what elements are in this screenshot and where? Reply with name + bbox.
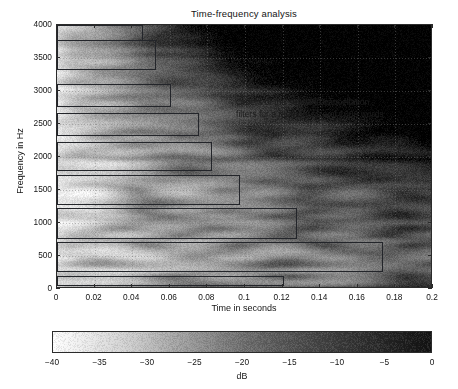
annotation-line-1: Orders of the subband cancellation [236,97,384,109]
y-tick-label: 3500 [20,52,52,62]
annotation-text: Orders of the subband cancellation filte… [236,97,384,120]
y-tick-label: 0 [20,283,52,293]
y-tick-mark [428,288,432,289]
colorbar-tick-label: −30 [140,357,154,367]
y-tick-label: 3000 [20,85,52,95]
x-axis-label: Time in seconds [56,303,432,313]
spectrogram-axes [56,24,432,288]
colorbar-label: dB [52,371,432,381]
y-axis-label: Frequency in Hz [15,111,25,211]
x-tick-label: 0.2 [426,292,438,302]
colorbar-tick-label: −5 [380,357,389,367]
x-tick-mark [432,24,433,28]
colorbar-tick-label: −15 [282,357,296,367]
colorbar-tick-label: −10 [330,357,344,367]
time-frequency-figure: Time-frequency analysis Orders of the su… [0,0,458,389]
y-tick-label: 4000 [20,19,52,29]
x-tick-label: 0.04 [123,292,139,302]
colorbar-tick-label: −25 [187,357,201,367]
x-tick-label: 0.12 [274,292,290,302]
colorbar-tick-label: −35 [92,357,106,367]
colorbar-tick-label: −40 [45,357,59,367]
x-tick-label: 0.02 [86,292,102,302]
x-tick-label: 0.14 [311,292,327,302]
x-tick-label: 0.1 [238,292,250,302]
colorbar [52,331,432,353]
colorbar-tick-label: 0 [430,357,435,367]
x-tick-mark [432,284,433,288]
y-tick-label: 1000 [20,217,52,227]
annotation-line-2: filters for a memory size of 1000 words [236,109,384,121]
x-tick-label: 0.18 [386,292,402,302]
x-tick-label: 0.16 [349,292,365,302]
x-tick-label: 0 [54,292,59,302]
x-tick-label: 0.08 [198,292,214,302]
subband-rectangles-overlay [57,25,432,288]
y-tick-label: 500 [20,250,52,260]
x-tick-label: 0.06 [161,292,177,302]
colorbar-texture [53,332,432,353]
chart-title: Time-frequency analysis [56,8,432,19]
colorbar-tick-label: −20 [235,357,249,367]
y-tick-mark [56,288,60,289]
